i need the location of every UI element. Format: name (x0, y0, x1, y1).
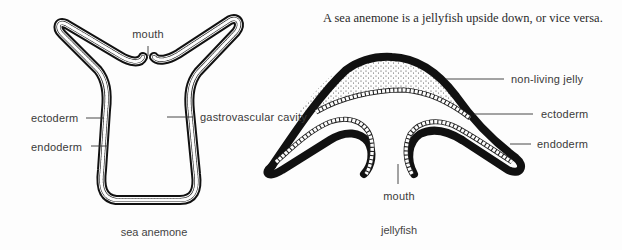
anemone-mouth-label: mouth (132, 28, 164, 40)
anemone-ectoderm-label: ectoderm (31, 112, 78, 124)
diagram-stage: A sea anemone is a jellyfish upside down… (0, 0, 622, 250)
anemone-cavity-label: gastrovascular cavity (200, 111, 307, 123)
jellyfish-endoderm-label: endoderm (537, 138, 588, 150)
jellyfish-caption: jellyfish (381, 224, 417, 236)
jellyfish-figure (267, 57, 533, 184)
jellyfish-jelly-label: non-living jelly (511, 73, 583, 85)
anemone-caption: sea anemone (121, 226, 188, 238)
anemone-endoderm-label: endoderm (31, 141, 82, 153)
sea-anemone-figure (52, 13, 239, 200)
jellyfish-mouth-label: mouth (383, 190, 415, 202)
diagram-drawing (0, 0, 622, 250)
figure-title: A sea anemone is a jellyfish upside down… (323, 11, 603, 25)
jellyfish-ectoderm-label: ectoderm (541, 108, 588, 120)
